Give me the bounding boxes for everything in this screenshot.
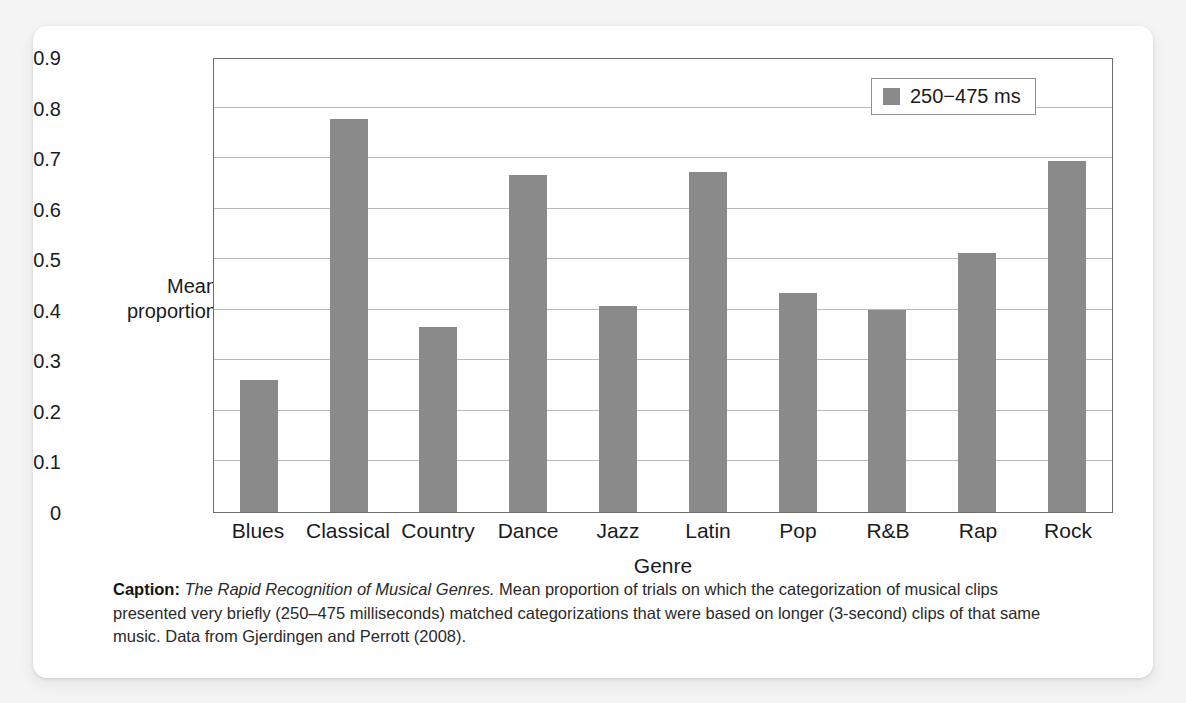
y-axis-tick-label: 0.5 [0,249,61,272]
x-axis-tick-label: Rap [959,519,998,543]
bar-slot [483,59,573,512]
bar[interactable] [689,172,727,512]
x-axis-tick-label: Latin [685,519,731,543]
y-axis-tick-label: 0.2 [0,400,61,423]
y-axis-tick-label: 0.8 [0,97,61,120]
bar[interactable] [509,175,547,512]
bar-slot [394,59,484,512]
x-axis-tick-label: Jazz [596,519,639,543]
bar-slot [304,59,394,512]
bar-slot [1022,59,1112,512]
bar[interactable] [958,253,996,512]
bar-chart: Mean proportion 00.10.20.30.40.50.60.70.… [33,26,1153,562]
y-axis-tick-label: 0.1 [0,451,61,474]
legend: 250−475 ms [871,78,1036,115]
plot-area [213,58,1113,513]
x-axis-tick-label: Dance [498,519,559,543]
legend-color-swatch [883,88,900,105]
x-axis-tick-label: Blues [232,519,285,543]
x-axis-tick-label: Country [401,519,475,543]
figure-caption: Caption: The Rapid Recognition of Musica… [113,578,1075,649]
bar[interactable] [330,119,368,512]
y-axis-tick-label: 0 [0,502,61,525]
bar[interactable] [868,310,906,512]
bar-slot [932,59,1022,512]
y-axis-title: Mean proportion [75,274,217,324]
y-axis-tick-label: 0.9 [0,47,61,70]
bar-slot [663,59,753,512]
bar-slot [214,59,304,512]
bar-slot [753,59,843,512]
x-axis-tick-label: R&B [866,519,909,543]
x-axis-tick-label: Pop [779,519,816,543]
y-axis-tick-label: 0.3 [0,350,61,373]
bars-layer [214,59,1112,512]
bar-slot [843,59,933,512]
bar[interactable] [779,293,817,512]
x-axis-tick-label: Classical [306,519,390,543]
bar[interactable] [240,380,278,512]
y-axis-tick-label: 0.7 [0,148,61,171]
bar[interactable] [1048,161,1086,512]
bar[interactable] [599,306,637,512]
y-axis-tick-label: 0.6 [0,198,61,221]
bar-slot [573,59,663,512]
bar[interactable] [419,327,457,512]
caption-label: Caption: [113,580,180,598]
figure-card: Mean proportion 00.10.20.30.40.50.60.70.… [33,26,1153,678]
legend-label: 250−475 ms [910,85,1021,108]
x-axis-tick-label: Rock [1044,519,1092,543]
caption-title: The Rapid Recognition of Musical Genres. [185,580,495,598]
x-axis-title: Genre [213,554,1113,578]
y-axis-tick-label: 0.4 [0,299,61,322]
